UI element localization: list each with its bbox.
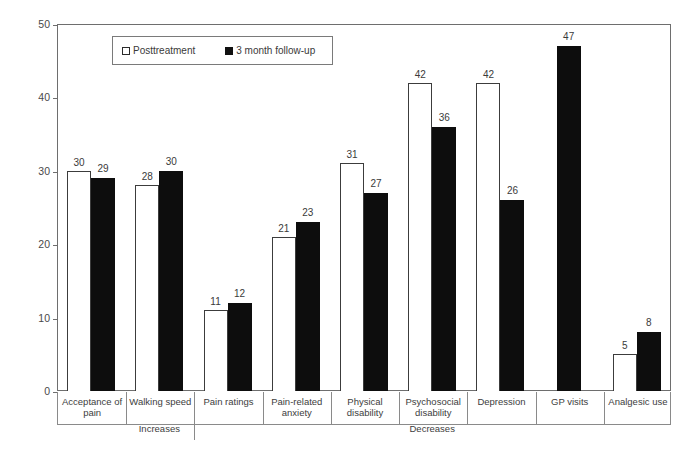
bar-followup[interactable]: 12 xyxy=(228,303,252,391)
bar-value-label: 28 xyxy=(142,171,153,182)
bar-followup[interactable]: 47 xyxy=(557,46,581,391)
bar-posttreatment[interactable]: 42 xyxy=(476,83,500,391)
bar-group: 1112 xyxy=(204,24,252,391)
bar-posttreatment[interactable]: 28 xyxy=(135,185,159,391)
bar-followup[interactable]: 23 xyxy=(296,222,320,391)
bar-group: 58 xyxy=(613,24,661,391)
y-tick-label: 50 xyxy=(26,18,50,30)
y-tick-label: 0 xyxy=(26,385,50,397)
category-label-text: Walking speed xyxy=(129,396,191,407)
bar-followup[interactable]: 26 xyxy=(500,200,524,391)
bar-value-label: 23 xyxy=(302,207,313,218)
group-label-decreases: Decreases xyxy=(398,423,466,434)
chart-legend: Posttreatment 3 month follow-up xyxy=(112,36,333,65)
category-label-depression: Depression xyxy=(467,392,535,425)
bar-group: 4226 xyxy=(476,24,524,391)
y-tick-label: 20 xyxy=(26,238,50,250)
category-divider xyxy=(194,392,195,440)
category-label-text: Physicaldisability xyxy=(347,396,383,418)
bar-value-label: 12 xyxy=(234,288,245,299)
filled-square-icon xyxy=(225,47,233,55)
category-label-text: Analgesic use xyxy=(608,396,667,407)
bar-group: 2123 xyxy=(272,24,320,391)
category-label-pain-ratings: Pain ratings xyxy=(194,392,262,425)
bar-value-label: 42 xyxy=(483,69,494,80)
category-label-table: Acceptance ofpainWalking speedPain ratin… xyxy=(57,392,671,425)
y-tick-label: 10 xyxy=(26,312,50,324)
chart-figure: Percentage improvement 01020304050 30292… xyxy=(0,0,685,451)
category-label-text: Depression xyxy=(477,396,525,407)
bar-posttreatment[interactable]: 21 xyxy=(272,237,296,391)
category-label-walking-speed: Walking speed xyxy=(126,392,194,425)
category-divider xyxy=(126,392,127,425)
bar-posttreatment[interactable]: 30 xyxy=(67,171,91,391)
y-tick-label: 40 xyxy=(26,91,50,103)
bar-value-label: 5 xyxy=(622,340,628,351)
group-label-increases: Increases xyxy=(125,423,193,434)
category-label-analgesic-use: Analgesic use xyxy=(604,392,672,425)
bar-value-label: 31 xyxy=(346,149,357,160)
category-label-pain-related-anxiety: Pain-relatedanxiety xyxy=(263,392,331,425)
legend-item-posttreatment: Posttreatment xyxy=(122,45,195,56)
category-divider xyxy=(604,392,605,425)
category-label-physical-disability: Physicaldisability xyxy=(331,392,399,425)
legend-item-followup: 3 month follow-up xyxy=(225,45,315,56)
bar-value-label: 27 xyxy=(370,178,381,189)
bar-value-label: 21 xyxy=(278,223,289,234)
bar-series-layer: 30292830111221233127423642264758 xyxy=(57,24,671,391)
bar-value-label: 47 xyxy=(563,31,574,42)
bar-value-label: 26 xyxy=(507,185,518,196)
category-label-acceptance-of-pain: Acceptance ofpain xyxy=(58,392,126,425)
bar-value-label: 11 xyxy=(210,296,220,307)
bar-posttreatment[interactable]: 31 xyxy=(340,163,364,391)
bar-posttreatment[interactable]: 11 xyxy=(204,310,228,391)
bar-followup[interactable]: 29 xyxy=(91,178,115,391)
category-label-gp-visits: GP visits xyxy=(536,392,604,425)
category-label-text: Acceptance ofpain xyxy=(62,396,122,418)
bar-group: 4236 xyxy=(408,24,456,391)
category-divider xyxy=(536,392,537,425)
category-label-text: Pain ratings xyxy=(203,396,253,407)
bar-group: 3127 xyxy=(340,24,388,391)
open-square-icon xyxy=(122,47,130,55)
category-divider xyxy=(263,392,264,425)
category-divider xyxy=(331,392,332,425)
bar-group: 3029 xyxy=(67,24,115,391)
bar-value-label: 29 xyxy=(98,163,109,174)
bar-followup[interactable]: 30 xyxy=(159,171,183,391)
y-tick-label: 30 xyxy=(26,165,50,177)
bar-value-label: 30 xyxy=(166,156,177,167)
bar-posttreatment[interactable]: 42 xyxy=(408,83,432,391)
category-label-text: Psychosocialdisability xyxy=(405,396,460,418)
bar-group: 47 xyxy=(545,24,593,391)
bar-followup[interactable]: 27 xyxy=(364,193,388,391)
category-divider xyxy=(399,392,400,425)
category-label-text: GP visits xyxy=(551,396,588,407)
bar-followup[interactable]: 36 xyxy=(432,127,456,391)
category-divider xyxy=(467,392,468,425)
bar-value-label: 42 xyxy=(415,69,426,80)
bar-value-label: 36 xyxy=(439,112,450,123)
category-label-text: Pain-relatedanxiety xyxy=(271,396,322,418)
category-label-psychosocial-disability: Psychosocialdisability xyxy=(399,392,467,425)
bar-value-label: 8 xyxy=(646,317,652,328)
bar-group: 2830 xyxy=(135,24,183,391)
bar-value-label: 30 xyxy=(74,157,85,168)
bar-posttreatment[interactable]: 5 xyxy=(613,354,637,391)
legend-label-followup: 3 month follow-up xyxy=(236,45,315,56)
bar-followup[interactable]: 8 xyxy=(637,332,661,391)
legend-label-posttreatment: Posttreatment xyxy=(133,45,195,56)
